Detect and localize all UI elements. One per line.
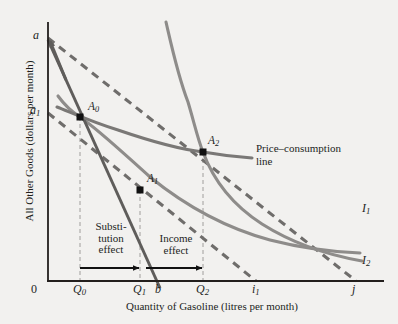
- x-axis-title: Quantity of Gasoline (litres per month): [47, 300, 377, 312]
- guide-lines: [80, 117, 203, 281]
- point-label-a0-sub: 0: [95, 105, 99, 114]
- curve-label-i1-sub: 1: [366, 206, 370, 216]
- point-label-a2-text: A: [208, 134, 215, 146]
- y-axis-title: All Other Goods (dollars per month): [23, 26, 35, 256]
- point-label-a2: A2: [208, 134, 219, 149]
- substitution-effect-line3: effect: [85, 244, 137, 256]
- origin-label: 0: [31, 283, 37, 296]
- point-label-a2-sub: 2: [215, 139, 219, 148]
- point-label-a0: A0: [88, 100, 99, 115]
- point-label-a0-text: A: [88, 100, 95, 112]
- point-label-a1-text: A: [147, 172, 154, 184]
- x-tick-q1-sub: 1: [142, 287, 146, 297]
- y-tick-a1: a1: [30, 104, 40, 118]
- x-tick-i1-sub: 1: [255, 287, 259, 297]
- x-tick-q2: Q2: [196, 283, 209, 297]
- x-tick-i1: i1: [252, 283, 260, 297]
- x-tick-q0: Q0: [73, 283, 86, 297]
- price-consumption-curve: [57, 107, 252, 158]
- x-tick-q0-sub: 0: [82, 287, 86, 297]
- economics-figure: All Other Goods (dollars per month) Quan…: [0, 0, 398, 324]
- curve-label-i2-sub: 2: [366, 258, 370, 268]
- price-consumption-line-label-line1: Price–consumption: [256, 142, 341, 155]
- curve-label-i2: I2: [362, 254, 370, 268]
- marker-a0: [77, 114, 84, 121]
- substitution-effect-line1: Substi-: [85, 221, 137, 233]
- x-tick-j: j: [352, 283, 355, 296]
- budget-line-original-arrow: [50, 41, 66, 80]
- substitution-effect-label: Substi- tution effect: [85, 221, 137, 256]
- x-tick-q1-text: Q: [133, 282, 142, 296]
- x-tick-b: b: [155, 283, 161, 296]
- curve-label-i1: I1: [362, 202, 370, 216]
- income-effect-line2: effect: [148, 245, 204, 257]
- income-effect-label: Income effect: [148, 233, 204, 256]
- price-consumption-line-label: Price–consumption line: [256, 142, 341, 167]
- marker-a2: [200, 149, 207, 156]
- x-tick-q2-text: Q: [196, 282, 205, 296]
- x-tick-q0-text: Q: [73, 282, 82, 296]
- y-tick-a: a: [33, 29, 39, 42]
- y-tick-a1-sub: 1: [36, 108, 40, 118]
- x-tick-q2-sub: 2: [205, 287, 209, 297]
- point-label-a1: A1: [147, 172, 158, 187]
- price-consumption-line-label-line2: line: [256, 155, 341, 168]
- x-tick-q1: Q1: [133, 283, 146, 297]
- income-effect-line1: Income: [148, 233, 204, 245]
- marker-a1: [137, 187, 144, 194]
- point-label-a1-sub: 1: [154, 177, 158, 186]
- y-tick-a-text: a: [33, 28, 39, 42]
